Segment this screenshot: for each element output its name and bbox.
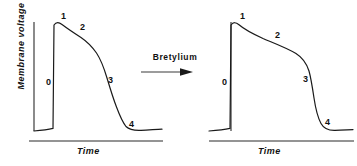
phase-label-4: 4 [129, 119, 134, 129]
y-axis-title-control: Membrane voltage [16, 0, 26, 94]
phase-label-2: 2 [275, 30, 280, 40]
panel-control: 0 1 2 3 4 Membrane voltage Time [0, 0, 178, 166]
phase-label-4: 4 [325, 117, 330, 127]
phase-label-1: 1 [61, 11, 66, 21]
x-axis-title-control: Time [77, 146, 100, 156]
phase-label-3: 3 [108, 75, 113, 85]
phase-label-2: 2 [80, 22, 85, 32]
phase-label-0: 0 [46, 77, 51, 87]
action-potential-trace-bretylium [209, 23, 353, 131]
phase-label-0: 0 [222, 77, 227, 87]
control-plot-area: 0 1 2 3 4 [0, 0, 178, 166]
x-axis-title-bretylium: Time [258, 146, 281, 156]
panel-bretylium: 0 1 2 3 4 Time [179, 0, 357, 166]
bretylium-plot-area: 0 1 2 3 4 [179, 0, 357, 166]
action-potential-figure: 0 1 2 3 4 Membrane voltage Time Bretyliu… [0, 0, 357, 166]
phase-label-1: 1 [240, 11, 245, 21]
phase-label-3: 3 [303, 74, 308, 84]
